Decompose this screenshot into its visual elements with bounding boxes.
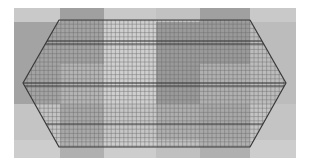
mesh-outline-layer [14,8,296,158]
plot-area [14,8,296,158]
mesh-outline-hexagon [23,20,286,147]
figure-root [0,0,309,167]
